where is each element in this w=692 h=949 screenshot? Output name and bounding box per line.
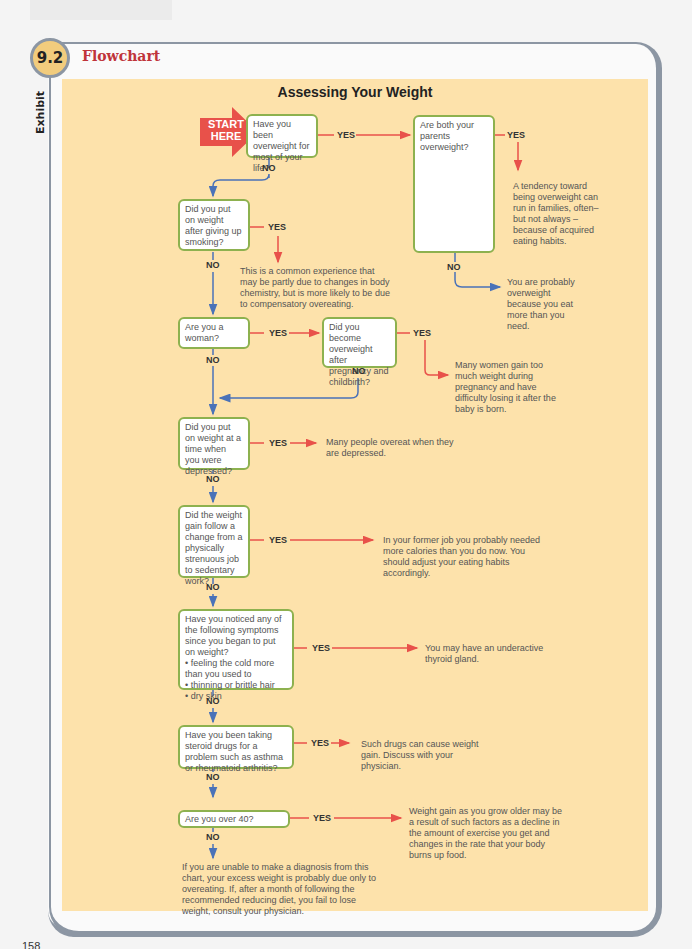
- outcome-overeating-consult: If you are unable to make a diagnosis fr…: [182, 862, 382, 917]
- no-label: NO: [447, 262, 461, 272]
- symptom-item: • feeling the cold more than you used to: [185, 658, 287, 680]
- outcome-pregnancy: Many women gain too much weight during p…: [455, 360, 567, 415]
- yes-label: YES: [269, 535, 287, 545]
- no-label: NO: [206, 772, 220, 782]
- no-label: NO: [206, 832, 220, 842]
- question-pregnancy-childbirth: Did you become overweight after pregnanc…: [322, 317, 397, 368]
- question-giving-up-smoking: Did you put on weight after giving up sm…: [178, 199, 250, 251]
- symptom-list: • feeling the cold more than you used to…: [185, 658, 287, 702]
- question-are-you-woman: Are you a woman?: [178, 317, 250, 349]
- yes-label: YES: [269, 328, 287, 338]
- no-label: NO: [352, 366, 366, 376]
- yes-label: YES: [337, 130, 355, 140]
- outcome-depression: Many people overeat when they are depres…: [326, 437, 456, 459]
- yes-label: YES: [413, 328, 431, 338]
- question-thyroid-symptoms-text: Have you noticed any of the following sy…: [185, 614, 287, 658]
- outcome-over-40: Weight gain as you grow older may be a r…: [409, 806, 569, 861]
- no-label: NO: [206, 355, 220, 365]
- question-overweight-most-of-life: Have you been overweight for most of you…: [246, 114, 318, 158]
- yes-label: YES: [311, 738, 329, 748]
- outcome-family-tendency: A tendency toward being overweight can r…: [513, 181, 601, 247]
- question-over-40: Are you over 40?: [178, 810, 290, 828]
- yes-label: YES: [268, 222, 286, 232]
- question-parents-overweight: Are both your parents overweight?: [413, 115, 495, 253]
- outcome-steroid: Such drugs can cause weight gain. Discus…: [361, 739, 481, 772]
- question-steroid-drugs: Have you been taking steroid drugs for a…: [178, 725, 294, 769]
- outcome-former-job: In your former job you probably needed m…: [383, 535, 553, 579]
- yes-label: YES: [507, 130, 525, 140]
- outcome-smoking: This is a common experience that may be …: [240, 266, 390, 310]
- outcome-eat-more-than-need: You are probably overweight because you …: [507, 277, 587, 332]
- yes-label: YES: [313, 813, 331, 823]
- connector-lines: [0, 0, 692, 949]
- symptom-item: • dry skin: [185, 691, 287, 702]
- question-depressed: Did you put on weight at a time when you…: [178, 417, 250, 470]
- symptom-item: • thinning or brittle hair: [185, 680, 287, 691]
- page-number: 158: [22, 940, 40, 949]
- outcome-thyroid: You may have an underactive thyroid glan…: [425, 643, 545, 665]
- question-sedentary-work: Did the weight gain follow a change from…: [178, 505, 250, 578]
- start-here-label: START HERE: [204, 118, 248, 142]
- yes-label: YES: [312, 643, 330, 653]
- yes-label: YES: [269, 438, 287, 448]
- no-label: NO: [206, 260, 220, 270]
- question-thyroid-symptoms: Have you noticed any of the following sy…: [178, 609, 294, 690]
- no-label: NO: [206, 474, 220, 484]
- no-label: NO: [262, 163, 276, 173]
- no-label: NO: [206, 582, 220, 592]
- no-label: NO: [206, 696, 220, 706]
